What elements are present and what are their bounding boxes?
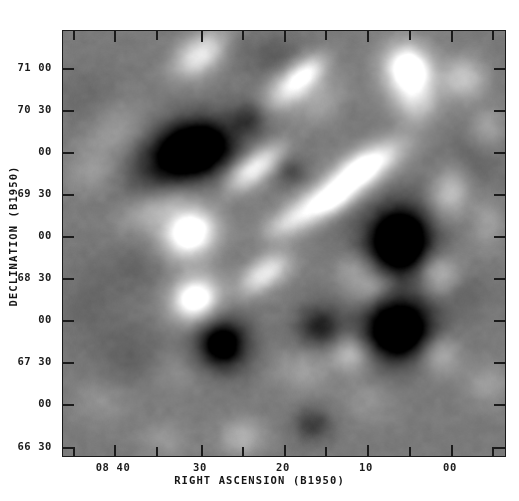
ytick-label: 68 30 [17,271,52,283]
plot-area [62,30,506,457]
tick-mark [156,447,158,456]
tick-mark [367,31,369,42]
ytick-label: 00 [38,145,52,157]
tick-mark [494,152,505,154]
tick-mark [494,320,505,322]
tick-mark [494,447,505,449]
tick-mark [451,445,453,456]
tick-mark [367,445,369,456]
tick-mark [63,68,74,70]
tick-mark [242,447,244,456]
xtick-label: 10 [359,461,373,473]
tick-mark [325,31,327,40]
tick-mark [63,362,74,364]
tick-mark [63,278,74,280]
x-axis-title: RIGHT ASCENSION (B1950) [0,474,519,486]
tick-mark [325,447,327,456]
ytick-label: 00 [38,313,52,325]
ytick-label: 67 30 [17,355,52,367]
tick-mark [284,31,286,42]
tick-mark [409,447,411,456]
tick-mark [284,445,286,456]
xtick-label: 30 [193,461,207,473]
tick-mark [494,404,505,406]
tick-mark [114,445,116,456]
ytick-label: 71 00 [17,61,52,73]
y-axis-title: DECLINATION (B1950) [7,146,19,326]
ytick-label: 00 [38,229,52,241]
tick-mark [156,31,158,40]
tick-mark [63,110,74,112]
tick-mark [63,194,74,196]
ytick-label: 70 30 [17,103,52,115]
tick-mark [494,236,505,238]
tick-mark [63,404,74,406]
tick-mark [492,447,494,456]
tick-mark [242,31,244,40]
xtick-label: 20 [276,461,290,473]
ytick-label: 66 30 [17,440,52,452]
tick-mark [73,31,75,40]
tick-mark [494,362,505,364]
tick-mark [494,194,505,196]
tick-mark [201,445,203,456]
xtick-label: 00 [443,461,457,473]
tick-mark [451,31,453,42]
tick-mark [63,236,74,238]
tick-mark [63,152,74,154]
tick-mark [494,68,505,70]
tick-mark [114,31,116,42]
tick-mark [409,31,411,40]
ytick-label: 00 [38,397,52,409]
tick-mark [201,31,203,42]
tick-mark [494,110,505,112]
tick-mark [73,447,75,456]
xtick-label: 08 40 [96,461,131,473]
tick-mark [63,320,74,322]
ytick-label: 69 30 [17,187,52,199]
grayscale-map-canvas [63,31,505,456]
astronomical-map-figure: 71 0070 300069 300068 300067 300066 30 0… [0,0,519,501]
tick-mark [494,278,505,280]
tick-mark [492,31,494,40]
